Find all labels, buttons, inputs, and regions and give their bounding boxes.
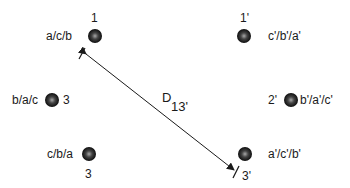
conductor-3-icon (82, 147, 96, 161)
conductor-3p-phases: a'/c'/b' (268, 148, 301, 160)
conductor-1p-phases: c'/b'/a' (268, 30, 301, 42)
distance-subscript: 13' (171, 100, 188, 113)
distance-arrow (79, 48, 239, 178)
conductor-2-icon (45, 93, 59, 107)
conductor-1p-icon (237, 29, 251, 43)
conductor-3-phases: c/b/a (47, 148, 73, 160)
conductor-3p-icon (238, 147, 252, 161)
conductor-2p-number: 2' (268, 94, 277, 106)
conductor-2-phases: b/a/c (12, 94, 38, 106)
conductor-diagram: 1 a/c/b b/a/c 3 c/b/a 3 1' c'/b'/a' 2' b… (0, 0, 350, 188)
conductor-3-number: 3 (85, 168, 92, 180)
conductor-1-phases: a/c/b (46, 30, 72, 42)
conductor-2p-phases: b'/a'/c' (300, 94, 333, 106)
conductor-1-number: 1 (91, 12, 98, 24)
conductor-3p-number: 3' (242, 170, 251, 182)
conductor-1p-number: 1' (240, 12, 249, 24)
conductor-2-number: 3 (63, 94, 70, 106)
conductor-2p-icon (284, 93, 298, 107)
conductor-1-icon (88, 29, 102, 43)
distance-label: D (162, 91, 171, 104)
